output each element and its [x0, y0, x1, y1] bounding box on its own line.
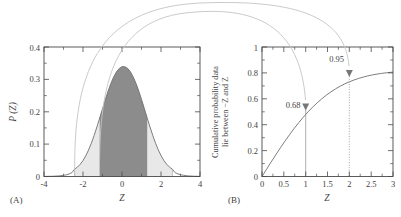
panel-b-ytick-5: 1	[254, 43, 258, 53]
panel-a: -4 -2 0 2 4 0 0.1 0.2 0.3 0.4 Z P (Z) (A…	[8, 43, 203, 206]
panel-b-yaxis-title-line1: Cumulative probability data	[211, 66, 220, 158]
panel-b-y-minor-ticks	[262, 60, 393, 164]
cumulative-probability-curve	[262, 72, 393, 176]
panel-a-ytick-0: 0	[36, 172, 40, 182]
panel-b-ytick-1: 0.2	[247, 146, 258, 156]
panel-b-label: (B)	[228, 195, 240, 205]
marker-0-68	[302, 104, 309, 111]
panel-b-ytick-2: 0.4	[247, 120, 258, 130]
annotation-0-95: 0.95	[329, 54, 344, 64]
one-sigma-shaded-area	[100, 67, 148, 177]
figure-container: -4 -2 0 2 4 0 0.1 0.2 0.3 0.4 Z P (Z) (A…	[0, 0, 401, 217]
panel-b-ytick-3: 0.6	[247, 94, 258, 104]
panel-a-yaxis-title: P (Z)	[8, 102, 19, 123]
panel-b-xaxis-title: Z	[324, 193, 330, 203]
statistics-figure: -4 -2 0 2 4 0 0.1 0.2 0.3 0.4 Z P (Z) (A…	[0, 0, 401, 217]
marker-0-95	[346, 70, 353, 77]
panel-a-ytick-3: 0.3	[29, 74, 40, 84]
panel-b-xtick-2: 1	[304, 179, 308, 189]
panel-a-xtick-0: -4	[40, 179, 48, 189]
panel-b-frame	[262, 47, 393, 177]
panel-a-label: (A)	[10, 195, 23, 205]
annotation-0-68: 0.68	[286, 100, 301, 110]
panel-a-xaxis-title: Z	[119, 193, 125, 203]
panel-b-xtick-6: 3	[391, 179, 395, 189]
panel-b-ytick-4: 0.8	[247, 68, 258, 78]
panel-b-xtick-4: 2	[347, 179, 351, 189]
panel-b-y-major-ticks	[262, 47, 393, 177]
panel-a-ytick-1: 0.1	[29, 139, 40, 149]
panel-b-xtick-1: 0.5	[278, 179, 289, 189]
panel-b-xtick-0: 0	[260, 179, 264, 189]
panel-b-xtick-5: 2.5	[366, 179, 377, 189]
panel-b-xtick-3: 1.5	[322, 179, 333, 189]
panel-b: 0.68 0.95	[211, 43, 395, 206]
panel-b-yaxis-title-line2: lie between −Z and Z	[221, 77, 230, 147]
panel-a-xtick-2: 0	[120, 179, 124, 189]
panel-a-xtick-4: 4	[198, 179, 203, 189]
panel-a-ytick-2: 0.2	[29, 107, 40, 117]
panel-a-xtick-1: -2	[79, 179, 86, 189]
panel-b-ytick-0: 0	[254, 172, 258, 182]
panel-a-xtick-3: 2	[159, 179, 163, 189]
panel-b-x-minor-ticks	[273, 47, 382, 177]
panel-b-x-major-ticks	[262, 47, 393, 177]
panel-a-ytick-4: 0.4	[29, 43, 40, 53]
